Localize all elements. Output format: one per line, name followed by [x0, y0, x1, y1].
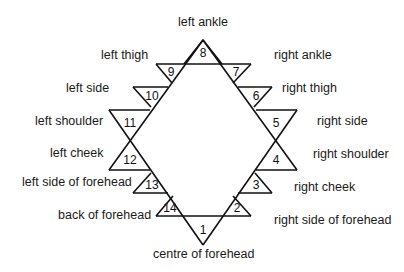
node-number-10: 10	[145, 89, 159, 103]
diamond-triangles-figure: 8 9 7 10 6 11 5 12 4 13 3 14 2 1	[0, 0, 404, 272]
label-back-of-forehead: back of forehead	[58, 208, 151, 222]
node-number-1: 1	[200, 223, 207, 237]
node-number-2: 2	[234, 201, 241, 215]
node-number-14: 14	[163, 201, 177, 215]
label-right-thigh: right thigh	[282, 81, 337, 95]
label-left-thigh: left thigh	[101, 48, 148, 62]
label-centre-of-forehead: centre of forehead	[153, 247, 254, 261]
label-right-shoulder: right shoulder	[313, 147, 389, 161]
label-left-ankle: left ankle	[178, 15, 228, 29]
node-number-7: 7	[233, 65, 240, 79]
node-number-5: 5	[273, 116, 280, 130]
label-right-side-of-forehead: right side of forehead	[274, 213, 391, 227]
label-right-ankle: right ankle	[274, 48, 332, 62]
node-number-12: 12	[123, 153, 137, 167]
label-left-shoulder: left shoulder	[35, 114, 103, 128]
label-left-side-of-forehead: left side of forehead	[22, 175, 132, 189]
node-number-4: 4	[273, 153, 280, 167]
node-number-6: 6	[253, 89, 260, 103]
label-left-side: left side	[66, 81, 109, 95]
node-number-8: 8	[200, 46, 207, 60]
label-right-cheek: right cheek	[294, 180, 355, 194]
node-number-3: 3	[253, 178, 260, 192]
node-number-9: 9	[168, 65, 175, 79]
node-number-11: 11	[124, 116, 137, 130]
label-left-cheek: left cheek	[50, 146, 104, 160]
label-right-side: right side	[317, 114, 368, 128]
diagram-canvas: 8 9 7 10 6 11 5 12 4 13 3 14 2 1 left an…	[0, 0, 404, 272]
node-number-13: 13	[145, 178, 159, 192]
